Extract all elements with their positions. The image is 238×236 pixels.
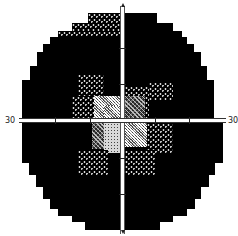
axis-label-left: 30	[5, 117, 15, 125]
tick-mark	[90, 117, 91, 124]
field-cell	[43, 44, 120, 52]
axis-label-right: 30	[228, 117, 238, 125]
field-cell	[125, 13, 157, 23]
field-cell	[72, 96, 94, 118]
field-cell	[88, 13, 120, 23]
field-cell	[92, 123, 104, 149]
field-cell	[104, 123, 120, 153]
field-cell	[125, 23, 173, 31]
horizontal-axis	[19, 118, 226, 123]
field-cell	[149, 82, 173, 100]
field-cell	[78, 150, 108, 176]
field-cell	[125, 209, 187, 216]
field-cell	[58, 209, 120, 216]
field-cell	[125, 187, 201, 199]
axis-arrow-up-icon	[121, 3, 125, 7]
tick-mark	[119, 84, 126, 85]
field-cell	[125, 96, 145, 118]
field-cell	[125, 222, 160, 230]
field-cell	[125, 66, 207, 80]
field-cell	[125, 199, 195, 209]
visual-field-plot: 30 30	[0, 0, 238, 236]
field-cell	[125, 52, 201, 66]
axis-arrow-down-icon	[121, 230, 125, 234]
tick-mark	[55, 117, 56, 124]
field-cell	[147, 123, 173, 153]
field-cell	[30, 66, 120, 80]
field-cell	[72, 23, 120, 31]
field-cell	[125, 123, 147, 147]
field-cell	[43, 187, 120, 199]
field-cell	[85, 222, 120, 230]
tick-mark	[119, 48, 126, 49]
field-cell	[50, 199, 120, 209]
field-cell	[125, 175, 209, 187]
tick-mark	[119, 158, 126, 159]
field-cell	[50, 37, 120, 44]
tick-mark	[119, 194, 126, 195]
field-cell	[125, 150, 155, 176]
field-cell	[36, 175, 120, 187]
tick-mark	[189, 117, 190, 124]
field-cell	[37, 52, 120, 66]
field-cell	[125, 44, 194, 52]
field-cell	[78, 74, 104, 96]
tick-mark	[155, 117, 156, 124]
field-cell	[125, 37, 187, 44]
field-cell	[104, 106, 120, 118]
